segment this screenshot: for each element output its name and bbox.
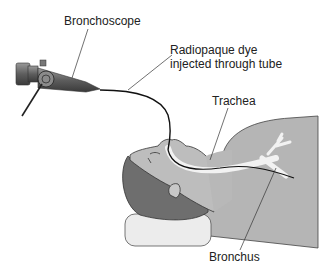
bronchoscope-cord [100,90,170,150]
label-radiopaque-dye: Radiopaque dye injected through tube [170,43,282,71]
label-bronchoscope: Bronchoscope [64,14,141,28]
label-trachea: Trachea [212,94,256,108]
bronchoscope [16,60,100,116]
bronchoscopy-diagram: Bronchoscope Radiopaque dye injected thr… [0,0,322,276]
label-dye-line2: injected through tube [170,57,282,71]
label-bronchus: Bronchus [209,250,260,264]
label-dye-line1: Radiopaque dye [170,43,282,57]
